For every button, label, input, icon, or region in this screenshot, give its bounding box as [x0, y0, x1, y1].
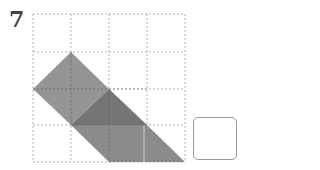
- answer-box[interactable]: [193, 117, 237, 160]
- parallelogram: [71, 125, 185, 162]
